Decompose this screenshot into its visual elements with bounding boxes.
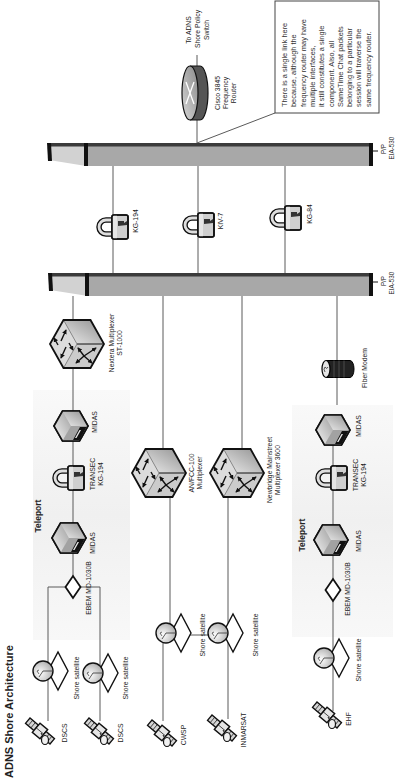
uplink-label-line2: Shore Policy [194,9,202,48]
router-label-line3: Router [230,82,237,103]
shore-satellite-label: Shore satellite [122,656,129,699]
satellite-dish-icon [156,614,191,652]
fiber-modem-icon [322,361,354,378]
midas-icon [316,415,350,445]
patch-panel-2-label-line1: P/P [380,276,387,286]
crypto-label-kg194: KG-194 [132,209,139,233]
anfcc-label-line1: AN/FCC-100 [188,453,195,492]
router-label-line1: Cisco 3845 [214,76,221,110]
teleport-1-transec-label-line2: KG-194 [97,462,104,486]
shore-satellite-label: Shore satellite [73,656,80,699]
satellite-icon [146,718,178,748]
teleport-2-midas-a-label: MIDAS [355,530,362,552]
callout-line: There is a single link here [280,23,289,107]
satellite-label-ehf: EHF [345,712,352,726]
router-label-line2: Frequency [222,76,230,109]
callout-line: multiple interfaces, [308,45,317,107]
multiplexer-icon [210,449,264,497]
satellite-dish-icon [208,614,243,652]
multiplexer-icon [50,320,104,368]
midas-icon [52,523,86,553]
teleport-2-transec-label-line2: KG-194 [360,463,367,487]
patch-panel-1-label-line1: P/P [380,144,387,154]
multiplexer-icon [132,449,186,497]
callout-line: belonging to a particular [345,28,354,107]
callout-leader-line [197,113,275,143]
newbridge-label-line2: Multiplexer 3600 [274,445,282,495]
satellite-label-dscs-1: DSCS [61,723,68,742]
lock-icon [99,215,128,239]
teleport-2-label: Teleport [297,518,307,551]
uplink-label-line1: To ADNS [185,16,192,44]
patch-panel-bar-2 [48,273,378,296]
callout-line: it still constitutes a single [317,26,326,107]
callout-line: because, although the [289,34,298,107]
satellite-icon [206,713,238,743]
satellite-icon [83,716,115,746]
teleport-1-transec-label-line1: TRANSEC [89,458,96,491]
callout-line: session will traverse the [354,29,363,107]
patch-panel-1-label-line2: EIA-530 [388,136,395,159]
nextera-label-line2: ST-1000 [116,330,123,356]
patch-panel-2-label-line2: EIA-530 [388,271,395,294]
satellite-icon [24,716,56,746]
callout-line: component. Also, all [327,40,336,107]
callout-line: frequency router may have [299,19,308,107]
crypto-label-kg84: KG-84 [306,204,313,224]
satellite-label-dscs-2: DSCS [117,723,124,742]
shore-satellite-label: Shore satellite [252,613,259,656]
teleport-2-midas-b-label: MIDAS [355,415,362,437]
diagram-title: ADNS Shore Architecture [3,645,15,778]
patch-panel-bar-1 [47,143,378,166]
satellite-label-inmarsat: INMARSAT [240,713,247,748]
teleport-1-label: Teleport [33,499,43,532]
shore-satellite-label: Shore satellite [355,638,362,681]
newbridge-label-line1: Newbridge Mainstreet [266,437,274,503]
diagram-canvas: ADNS Shore Architecture [0,0,398,781]
teleport-1-midas-b-label: MIDAS [91,411,98,433]
anfcc-label-line2: Multiplexer [196,456,204,490]
satellite-dish-icon [314,639,349,677]
router-icon [182,66,208,120]
shore-satellite-label: Shore satellite [199,613,206,656]
callout-note: There is a single link here because, alt… [275,1,379,113]
midas-icon [54,411,88,441]
callout-line: same frequency router. [364,31,373,107]
lock-icon [185,213,214,237]
fiber-modem-label: Fiber Modem [361,348,368,388]
teleport-1-midas-a-label: MIDAS [89,532,96,554]
teleport-2-modem-label: EBEM MD-1030B [344,562,351,616]
midas-icon [314,525,348,555]
teleport-1-modem-label: EBEM MD-1030B [85,561,92,615]
diagram-stage-rotated: ADNS Shore Architecture [0,0,398,781]
lock-icon [272,206,301,230]
teleport-2-transec-label-line1: TRANSEC [352,459,359,492]
nextera-label-line1: Nextera Multiplexer [108,313,116,372]
uplink-label-line3: Switch [203,20,210,40]
satellite-label-cwsp: CWSP [180,724,187,745]
callout-line: SameTime Chat packets [336,26,345,107]
crypto-label-kiv7: KIV-7 [217,212,224,229]
satellite-dish-icon [33,652,68,690]
satellite-icon [311,700,343,730]
